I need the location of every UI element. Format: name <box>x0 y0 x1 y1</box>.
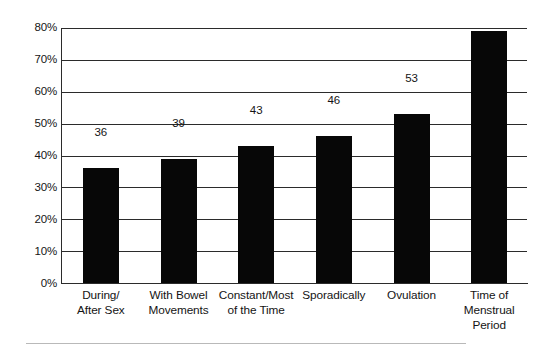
bar[interactable] <box>83 168 119 283</box>
y-tick-label-80: 80% <box>5 22 57 34</box>
bar-slot-1: 39 <box>140 0 218 283</box>
category-label-2: Constant/Most of the Time <box>213 288 299 318</box>
bar[interactable] <box>394 114 430 283</box>
category-label-1: With Bowel Movements <box>140 288 218 318</box>
category-label-line: Movements <box>140 303 218 318</box>
y-tick-label-0: 0% <box>5 278 57 290</box>
bar[interactable] <box>316 136 352 283</box>
y-tick-label-10: 10% <box>5 246 57 258</box>
bar-value-label: 79 <box>483 0 496 1</box>
category-label-line: During/ <box>62 288 140 303</box>
category-label-line: of the Time <box>213 303 299 318</box>
category-label-line: Menstrual <box>450 303 528 318</box>
category-label-line: Ovulation <box>373 288 451 303</box>
bar[interactable] <box>238 146 274 283</box>
x-axis-category-labels: During/ After Sex With Bowel Movements C… <box>62 288 528 350</box>
category-label-line: With Bowel <box>140 288 218 303</box>
bar-slot-4: 53 <box>373 0 451 283</box>
y-tick-label-50: 50% <box>5 118 57 130</box>
category-label-5: Time of Menstrual Period <box>450 288 528 333</box>
x-axis-line <box>62 283 528 284</box>
bar-value-label: 43 <box>250 104 263 116</box>
y-tick-label-20: 20% <box>5 214 57 226</box>
category-label-line: Sporadically <box>295 288 373 303</box>
y-tick-label-30: 30% <box>5 182 57 194</box>
category-label-4: Ovulation <box>373 288 451 303</box>
category-label-line: Period <box>450 318 528 333</box>
y-tick-label-40: 40% <box>5 150 57 162</box>
bar-value-label: 36 <box>94 126 107 138</box>
category-label-0: During/ After Sex <box>62 288 140 318</box>
bar-value-label: 53 <box>405 72 418 84</box>
bar-slot-5: 79 <box>450 0 528 283</box>
bar-slot-3: 46 <box>295 0 373 283</box>
footer-divider <box>26 343 466 344</box>
y-tick-label-70: 70% <box>5 54 57 66</box>
category-label-line: After Sex <box>62 303 140 318</box>
bar[interactable] <box>161 159 197 283</box>
bar-value-label: 39 <box>172 117 185 129</box>
category-label-line: Constant/Most <box>213 288 299 303</box>
category-label-line: Time of <box>450 288 528 303</box>
bar-slot-0: 36 <box>62 0 140 283</box>
y-tick-label-60: 60% <box>5 86 57 98</box>
category-label-3: Sporadically <box>295 288 373 303</box>
bar[interactable] <box>471 31 507 283</box>
bar-slot-2: 43 <box>217 0 295 283</box>
y-axis-tick-labels: 80% 70% 60% 50% 40% 30% 20% 10% 0% <box>0 0 57 353</box>
bars-layer: 36 39 43 46 53 79 <box>62 0 528 283</box>
bar-value-label: 46 <box>327 94 340 106</box>
bar-chart-figure: 80% 70% 60% 50% 40% 30% 20% 10% 0% 36 39… <box>0 0 560 353</box>
